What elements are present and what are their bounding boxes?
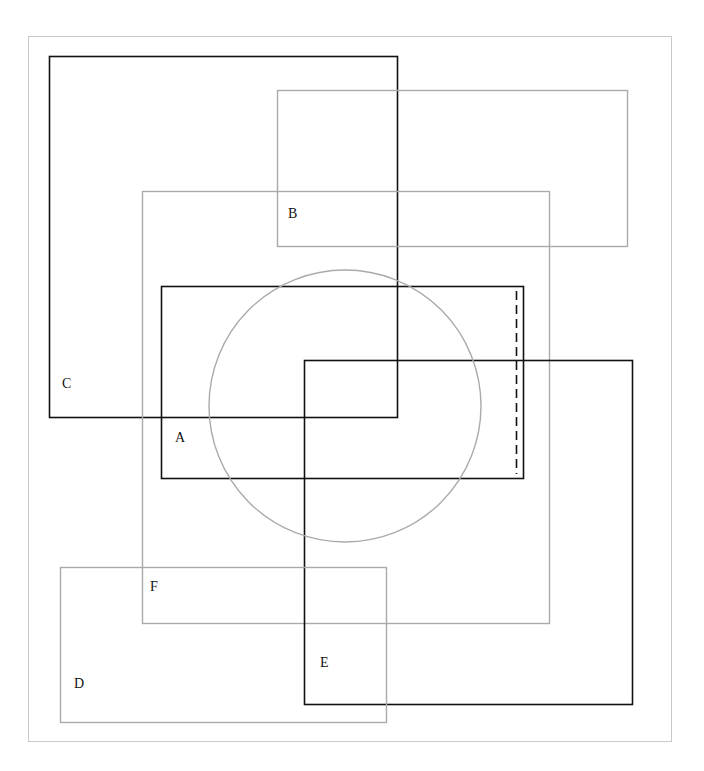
label-d: D	[74, 676, 84, 691]
label-e: E	[320, 655, 329, 670]
rect-d	[61, 568, 387, 723]
label-b: B	[288, 206, 297, 221]
label-a: A	[175, 430, 186, 445]
outer-frame	[29, 37, 672, 742]
rect-f	[143, 192, 550, 624]
shapes-layer	[50, 57, 633, 723]
label-c: C	[62, 376, 71, 391]
rect-b	[278, 91, 628, 247]
labels-layer: CBFAED	[62, 206, 329, 691]
diagram-canvas: CBFAED	[0, 0, 704, 771]
rect-c	[50, 57, 398, 418]
circle-shape	[209, 270, 481, 542]
rect-e	[305, 361, 633, 705]
label-f: F	[150, 579, 158, 594]
